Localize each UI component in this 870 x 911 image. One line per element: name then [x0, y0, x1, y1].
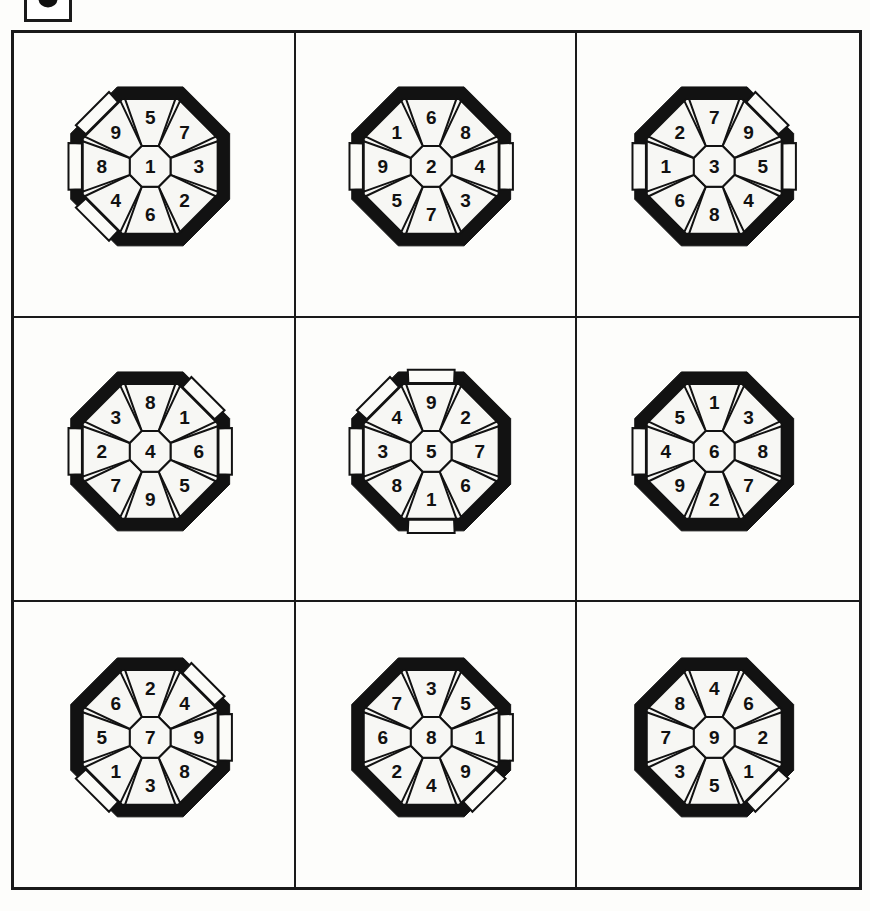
wedge-number-right: 3 — [193, 156, 204, 177]
puzzle-2[interactable]: 684375912 — [337, 72, 527, 262]
wedge-number-top: 3 — [426, 678, 437, 699]
wedge-number-right: 7 — [475, 441, 486, 462]
wedge-breakout-tab — [408, 520, 455, 533]
wedge-number-lower-right: 3 — [461, 191, 472, 212]
wedge-number-upper-right: 7 — [179, 122, 190, 143]
wedge-number-bottom: 9 — [145, 489, 156, 510]
wedge-breakout-tab — [633, 428, 646, 475]
wedge-number-upper-left: 2 — [675, 122, 686, 143]
wedge-number-upper-left: 5 — [675, 407, 686, 428]
puzzle-4[interactable]: 816597234 — [55, 356, 245, 546]
grid-cell-5[interactable]: 927618345 — [296, 318, 578, 603]
grid-cell-2[interactable]: 684375912 — [296, 33, 578, 318]
wedge-breakout-tab — [500, 143, 513, 190]
wedge-number-upper-right: 2 — [461, 407, 472, 428]
wedge-number-left: 7 — [661, 727, 672, 748]
wedge-number-left: 8 — [96, 156, 107, 177]
wedge-breakout-tab — [68, 143, 81, 190]
partial-label-box — [24, 0, 72, 22]
puzzle-6[interactable]: 138729456 — [619, 356, 809, 546]
wedge-number-upper-right: 3 — [743, 407, 754, 428]
wedge-number-lower-left: 6 — [675, 191, 686, 212]
wedge-number-top: 9 — [426, 392, 437, 413]
puzzle-5[interactable]: 927618345 — [337, 356, 527, 546]
wedge-number-top: 4 — [709, 678, 720, 699]
wedge-breakout-tab — [633, 143, 646, 190]
puzzle-7[interactable]: 249831567 — [55, 642, 245, 832]
core-number: 8 — [426, 727, 437, 748]
grid-cell-1[interactable]: 573264891 — [14, 33, 296, 318]
grid-cell-8[interactable]: 351942678 — [296, 602, 578, 887]
octagon-puzzle: 138729456 — [619, 356, 809, 546]
core-number: 9 — [709, 727, 720, 748]
wedge-number-right: 8 — [758, 441, 769, 462]
wedge-number-bottom: 5 — [709, 775, 720, 796]
wedge-number-left: 9 — [378, 156, 389, 177]
puzzle-8[interactable]: 351942678 — [337, 642, 527, 832]
wedge-breakout-tab — [218, 714, 231, 761]
core-number: 4 — [145, 441, 156, 462]
octagon-puzzle: 462153789 — [619, 642, 809, 832]
wedge-number-upper-left: 4 — [392, 407, 403, 428]
wedge-number-lower-left: 3 — [675, 761, 686, 782]
wedge-number-upper-left: 6 — [110, 692, 121, 713]
puzzle-3[interactable]: 795486123 — [619, 72, 809, 262]
octagon-puzzle: 249831567 — [55, 642, 245, 832]
grid-cell-7[interactable]: 249831567 — [14, 602, 296, 887]
wedge-number-top: 7 — [709, 108, 720, 129]
wedge-number-upper-right: 9 — [743, 122, 754, 143]
octagon-puzzle: 927618345 — [337, 356, 527, 546]
puzzle-9[interactable]: 462153789 — [619, 642, 809, 832]
wedge-number-lower-right: 2 — [179, 191, 190, 212]
octagon-puzzle: 816597234 — [55, 356, 245, 546]
wedge-breakout-tab — [408, 370, 455, 383]
wedge-breakout-tab — [350, 143, 363, 190]
octagon-puzzle: 684375912 — [337, 72, 527, 262]
wedge-number-left: 2 — [96, 441, 107, 462]
wedge-number-lower-left: 8 — [392, 475, 403, 496]
grid-cell-6[interactable]: 138729456 — [577, 318, 859, 603]
wedge-number-upper-right: 5 — [461, 692, 472, 713]
wedge-number-top: 1 — [709, 392, 720, 413]
wedge-number-upper-right: 6 — [743, 692, 754, 713]
wedge-number-top: 6 — [426, 108, 437, 129]
wedge-number-upper-left: 1 — [392, 122, 403, 143]
grid-cell-9[interactable]: 462153789 — [577, 602, 859, 887]
wedge-number-lower-right: 1 — [743, 761, 754, 782]
wedge-number-lower-right: 7 — [743, 475, 754, 496]
core-number: 5 — [426, 441, 437, 462]
wedge-breakout-tab — [218, 428, 231, 475]
core-number: 1 — [145, 157, 156, 178]
wedge-number-right: 9 — [193, 727, 204, 748]
wedge-number-top: 8 — [145, 392, 156, 413]
wedge-number-lower-left: 5 — [392, 191, 403, 212]
core-number: 7 — [145, 727, 156, 748]
wedge-number-right: 6 — [193, 441, 204, 462]
wedge-number-bottom: 3 — [145, 775, 156, 796]
wedge-number-bottom: 8 — [709, 205, 720, 226]
wedge-number-bottom: 6 — [145, 205, 156, 226]
octagon-puzzle: 795486123 — [619, 72, 809, 262]
label-blob-icon — [39, 0, 58, 8]
wedge-breakout-tab — [350, 428, 363, 475]
wedge-number-lower-left: 7 — [110, 475, 121, 496]
wedge-number-lower-left: 4 — [110, 191, 121, 212]
grid-cell-3[interactable]: 795486123 — [577, 33, 859, 318]
wedge-number-lower-right: 4 — [743, 191, 754, 212]
wedge-number-right: 1 — [475, 727, 486, 748]
wedge-number-lower-left: 2 — [392, 761, 403, 782]
puzzle-1[interactable]: 573264891 — [55, 72, 245, 262]
core-number: 2 — [426, 157, 437, 178]
octagon-puzzle: 573264891 — [55, 72, 245, 262]
wedge-number-left: 5 — [96, 727, 107, 748]
wedge-number-bottom: 7 — [426, 205, 437, 226]
wedge-number-lower-right: 6 — [461, 475, 472, 496]
wedge-breakout-tab — [783, 143, 796, 190]
wedge-breakout-tab — [68, 428, 81, 475]
grid-cell-4[interactable]: 816597234 — [14, 318, 296, 603]
wedge-number-upper-left: 3 — [110, 407, 121, 428]
wedge-number-upper-right: 1 — [179, 407, 190, 428]
wedge-number-lower-right: 8 — [179, 761, 190, 782]
wedge-number-bottom: 1 — [426, 489, 437, 510]
wedge-number-upper-left: 8 — [675, 692, 686, 713]
